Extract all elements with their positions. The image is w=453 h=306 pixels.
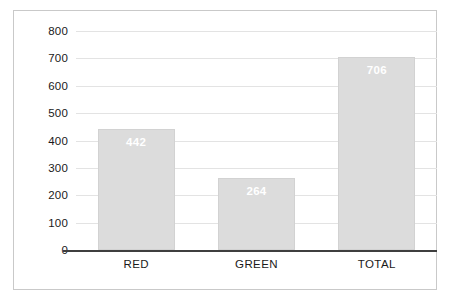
x-axis-tick-labels: REDGREENTOTAL: [76, 258, 437, 282]
y-axis-tick-label: 500: [24, 107, 68, 119]
bar[interactable]: 264: [218, 178, 295, 250]
y-axis-tick-label: 400: [24, 135, 68, 147]
x-axis-tick-label: RED: [76, 258, 196, 270]
y-axis-tick-label: 100: [24, 217, 68, 229]
y-axis-tick-label: 700: [24, 52, 68, 64]
y-axis-tick-label: 0: [24, 244, 68, 256]
bar-value-label: 706: [339, 64, 414, 76]
bar-value-label: 442: [99, 136, 174, 148]
y-axis-tick-label: 200: [24, 189, 68, 201]
bar-group: 442: [98, 31, 175, 250]
bar-value-label: 264: [219, 185, 294, 197]
bar-group: 264: [218, 31, 295, 250]
bar-group: 706: [338, 31, 415, 250]
y-axis-tick-label: 300: [24, 162, 68, 174]
x-axis-tick-label: GREEN: [196, 258, 316, 270]
chart-frame: 8007006005004003002001000 442264706 REDG…: [13, 10, 437, 290]
y-axis-tick-label: 600: [24, 80, 68, 92]
plot-area: 442264706: [76, 31, 437, 250]
bar[interactable]: 442: [98, 129, 175, 250]
x-axis-line: [63, 250, 437, 252]
y-axis-tick-labels: 8007006005004003002001000: [14, 31, 68, 250]
y-axis-tick-label: 800: [24, 25, 68, 37]
bar[interactable]: 706: [338, 57, 415, 250]
x-axis-tick-label: TOTAL: [317, 258, 437, 270]
